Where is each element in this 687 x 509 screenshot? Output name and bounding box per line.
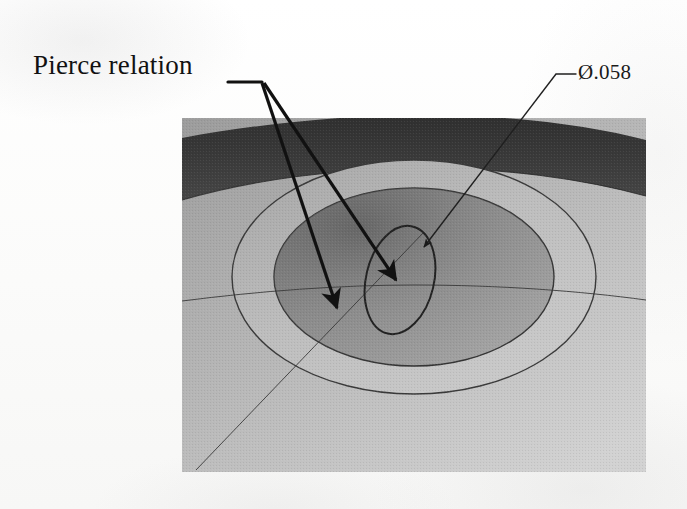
pierce-relation-label: Pierce relation — [33, 50, 193, 81]
cad-figure: Pierce relation Ø.058 — [0, 0, 687, 509]
panel-scan-speckle — [182, 118, 646, 472]
diameter-dimension-label: Ø.058 — [578, 60, 631, 85]
